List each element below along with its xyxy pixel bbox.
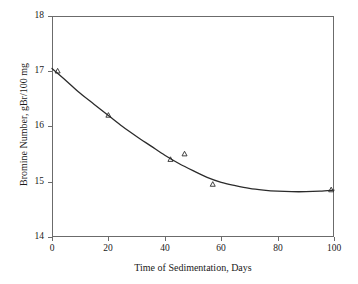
x-tick-label-40: 40 — [150, 244, 180, 254]
x-tick-mark — [108, 237, 109, 241]
x-tick-label-0: 0 — [37, 244, 67, 254]
y-tick-mark — [48, 16, 52, 17]
x-tick-label-20: 20 — [93, 244, 123, 254]
x-tick-mark — [221, 237, 222, 241]
x-tick-label-80: 80 — [263, 244, 293, 254]
y-tick-mark — [48, 71, 52, 72]
y-axis-title: Bromine Number, gBr/100 mg — [18, 10, 29, 240]
y-tick-mark — [48, 182, 52, 183]
x-tick-mark — [165, 237, 166, 241]
chart-figure: 18 17 16 15 14 0 20 40 60 80 100 Time of… — [0, 0, 358, 284]
plot-area — [52, 16, 334, 237]
y-tick-mark — [48, 126, 52, 127]
x-tick-mark — [334, 237, 335, 241]
x-tick-label-60: 60 — [206, 244, 236, 254]
x-axis-title: Time of Sedimentation, Days — [52, 262, 334, 273]
x-tick-label-100: 100 — [319, 244, 349, 254]
x-tick-mark — [278, 237, 279, 241]
x-tick-mark — [52, 237, 53, 241]
